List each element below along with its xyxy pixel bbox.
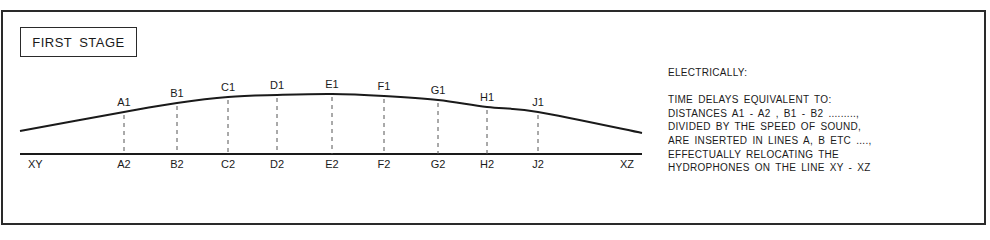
- label-d2: D2: [270, 158, 284, 170]
- label-j1: J1: [532, 96, 544, 108]
- notes-line: HYDROPHONES ON THE LINE XY - XZ: [668, 161, 968, 175]
- label-e1: E1: [325, 78, 338, 90]
- label-g2: G2: [431, 158, 446, 170]
- label-e2: E2: [325, 158, 338, 170]
- label-a2: A2: [117, 158, 130, 170]
- label-c2: C2: [221, 158, 235, 170]
- notes-line: ARE INSERTED IN LINES A, B ETC ....,: [668, 134, 968, 148]
- label-h2: H2: [480, 158, 494, 170]
- label-xy: XY: [28, 158, 43, 170]
- notes-line: DIVIDED BY THE SPEED OF SOUND,: [668, 120, 968, 134]
- notes-heading: ELECTRICALLY:: [668, 66, 968, 80]
- label-j2: J2: [532, 158, 544, 170]
- label-c1: C1: [221, 81, 235, 93]
- label-b2: B2: [170, 158, 183, 170]
- label-f2: F2: [378, 158, 391, 170]
- notes-line: EFFECTUALLY RELOCATING THE: [668, 148, 968, 162]
- notes-line: DISTANCES A1 - A2 , B1 - B2 .........,: [668, 107, 968, 121]
- label-h1: H1: [480, 91, 494, 103]
- physical-array-curve: [20, 94, 642, 133]
- label-d1: D1: [270, 79, 284, 91]
- electrical-notes: ELECTRICALLY: TIME DELAYS EQUIVALENT TO:…: [668, 66, 968, 175]
- label-xz: XZ: [620, 158, 634, 170]
- label-a1: A1: [117, 96, 130, 108]
- label-b1: B1: [170, 87, 183, 99]
- hydrophone-labels: A1A2B1B2C1C2D1D2E1E2F1F2G1G2H1H2J1J2: [117, 78, 544, 170]
- notes-line: TIME DELAYS EQUIVALENT TO:: [668, 93, 968, 107]
- label-g1: G1: [431, 84, 446, 96]
- label-f1: F1: [378, 80, 391, 92]
